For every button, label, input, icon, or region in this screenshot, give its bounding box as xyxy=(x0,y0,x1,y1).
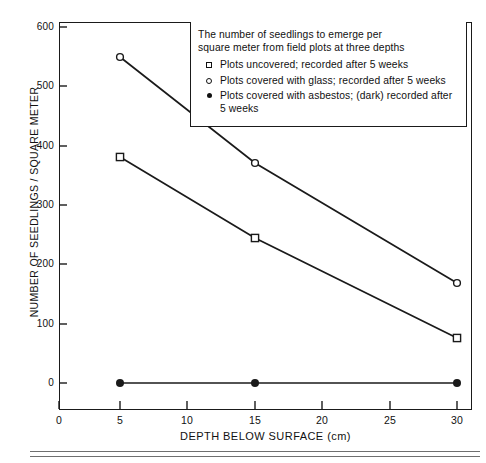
legend-item-glass: Plots covered with glass; recorded after… xyxy=(198,75,458,88)
legend-item-label: Plots uncovered; recorded after 5 weeks xyxy=(220,59,408,72)
y-tick-label: 600 xyxy=(20,21,54,32)
y-axis-title: NUMBER OF SEEDLINGS / SQUARE METER xyxy=(28,72,40,332)
x-tick-label: 15 xyxy=(240,414,270,426)
series-asbestos xyxy=(116,379,461,387)
x-tick-label: 25 xyxy=(375,414,405,426)
legend-title-line-2: square meter from field plots at three d… xyxy=(198,42,405,53)
legend-title-line-1: The number of seedlings to emerge per xyxy=(198,29,382,40)
legend-item-label: Plots covered with asbestos; (dark) reco… xyxy=(220,90,458,115)
x-tick-label: 5 xyxy=(105,414,135,426)
open-circle-icon xyxy=(198,75,220,84)
x-tick-label: 20 xyxy=(307,414,337,426)
x-tick-label: 30 xyxy=(442,414,472,426)
x-axis-title: DEPTH BELOW SURFACE (cm) xyxy=(59,430,472,442)
footer-rule-bottom xyxy=(30,456,480,457)
x-tick-label: 10 xyxy=(172,414,202,426)
legend-item-label: Plots covered with glass; recorded after… xyxy=(220,75,446,88)
footer-rule-top xyxy=(30,451,480,452)
y-axis-ticks xyxy=(59,27,67,383)
figure: 600 500 400 300 200 100 0 0 5 10 15 20 2… xyxy=(0,0,486,463)
series-uncovered xyxy=(116,153,460,341)
legend-box: The number of seedlings to emerge per sq… xyxy=(190,22,467,127)
open-square-icon xyxy=(198,59,220,68)
filled-circle-icon xyxy=(198,90,220,98)
x-axis-ticks xyxy=(59,401,457,409)
y-tick-label: 0 xyxy=(20,377,54,388)
legend-item-uncovered: Plots uncovered; recorded after 5 weeks xyxy=(198,59,458,72)
legend-item-asbestos: Plots covered with asbestos; (dark) reco… xyxy=(198,90,458,115)
x-tick-label: 0 xyxy=(44,414,74,426)
legend-title: The number of seedlings to emerge per sq… xyxy=(198,29,458,54)
